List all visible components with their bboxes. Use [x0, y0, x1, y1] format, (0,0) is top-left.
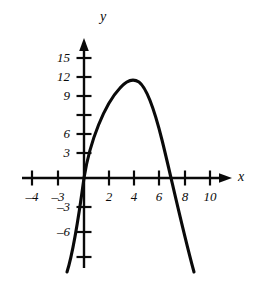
x-tick-label-4: 4 [122, 190, 146, 203]
x-axis [22, 173, 232, 183]
x-tick-label-2: 2 [97, 190, 121, 203]
coordinate-plane-svg [0, 0, 259, 282]
x-tick-label-10: 10 [197, 190, 223, 203]
parabola-curve [67, 80, 194, 272]
y-tick-label-6: 6 [46, 127, 70, 140]
y-tick-label-9: 9 [46, 89, 70, 102]
y-tick-label-15: 15 [46, 51, 70, 64]
x-tick-label-6: 6 [147, 190, 171, 203]
x-tick-label-8: 8 [173, 190, 197, 203]
y-tick-label-3: 3 [46, 146, 70, 159]
x-tick-label-minus-3: –3 [43, 190, 73, 203]
x-axis-label: x [238, 170, 244, 184]
y-axis-label: y [100, 10, 106, 24]
graph-figure: y x 15 12 9 6 3 –3 –6 –4 –3 2 4 6 8 10 [0, 0, 259, 282]
y-tick-label-minus-6: –6 [40, 225, 70, 238]
y-tick-label-12: 12 [46, 70, 70, 83]
